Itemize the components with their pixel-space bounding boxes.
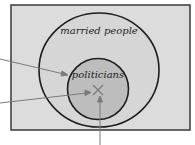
euler-diagram: married people politicians bbox=[0, 0, 195, 145]
married-people-label: married people bbox=[60, 25, 138, 36]
politicians-circle bbox=[68, 59, 129, 120]
politicians-label: politicians bbox=[72, 69, 124, 80]
